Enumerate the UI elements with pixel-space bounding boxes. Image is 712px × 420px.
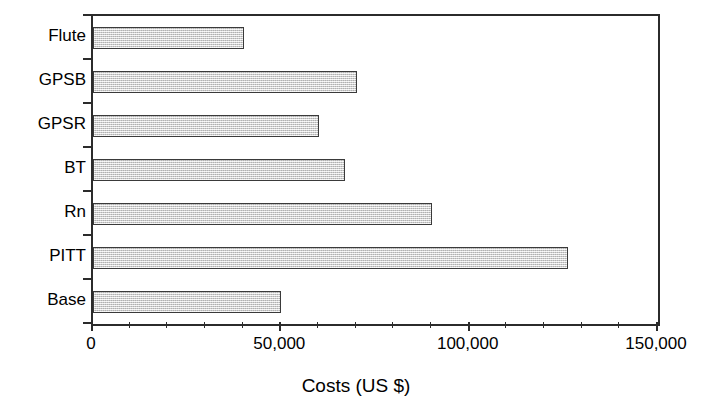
y-axis-label-pitt: PITT xyxy=(2,246,86,266)
y-axis-tick xyxy=(83,14,92,16)
y-axis-tick xyxy=(83,190,92,192)
plot-area xyxy=(91,14,660,326)
x-axis-tick-label-3: 150,000 xyxy=(625,334,686,354)
y-axis-tick xyxy=(83,58,92,60)
x-axis-minor-tick xyxy=(242,322,243,328)
y-axis-tick xyxy=(83,278,92,280)
x-axis-minor-tick xyxy=(355,322,356,328)
x-axis-tick-label-2: 100,000 xyxy=(437,334,498,354)
bar-pitt xyxy=(93,247,568,269)
y-axis-tick xyxy=(83,146,92,148)
bar-gpsb xyxy=(93,71,357,93)
y-axis-label-base: Base xyxy=(2,290,86,310)
x-axis-minor-tick xyxy=(392,322,393,328)
bar-gpsr xyxy=(93,115,319,137)
x-axis-minor-tick xyxy=(618,322,619,328)
x-axis-minor-tick xyxy=(129,322,130,328)
y-axis-label-flute: Flute xyxy=(2,26,86,46)
y-axis-label-bt: BT xyxy=(2,158,86,178)
x-axis-minor-tick xyxy=(317,322,318,328)
x-axis-minor-tick xyxy=(543,322,544,328)
x-axis-minor-tick xyxy=(204,322,205,328)
x-axis-major-tick xyxy=(656,322,658,331)
x-axis-major-tick xyxy=(91,322,93,331)
x-axis-minor-tick xyxy=(166,322,167,328)
x-axis-tick-label-1: 50,000 xyxy=(253,334,305,354)
x-axis-tick-label-0: 0 xyxy=(86,334,95,354)
x-axis-major-tick xyxy=(468,322,470,331)
bar-base xyxy=(93,291,281,313)
bar-bt xyxy=(93,159,345,181)
y-axis-label-gpsr: GPSR xyxy=(2,114,86,134)
y-axis-labels: Flute GPSB GPSR BT Rn PITT Base xyxy=(0,0,86,420)
bar-flute xyxy=(93,27,244,49)
y-axis-tick xyxy=(83,102,92,104)
bar-chart: Flute GPSB GPSR BT Rn PITT Base 0 50,000… xyxy=(0,0,712,420)
y-axis-tick xyxy=(83,234,92,236)
x-axis-minor-tick xyxy=(430,322,431,328)
bar-rn xyxy=(93,203,432,225)
x-axis-minor-tick xyxy=(505,322,506,328)
y-axis-label-rn: Rn xyxy=(2,202,86,222)
y-axis-label-gpsb: GPSB xyxy=(2,70,86,90)
x-axis-major-tick xyxy=(279,322,281,331)
x-axis-minor-tick xyxy=(581,322,582,328)
x-axis-title: Costs (US $) xyxy=(0,374,712,398)
